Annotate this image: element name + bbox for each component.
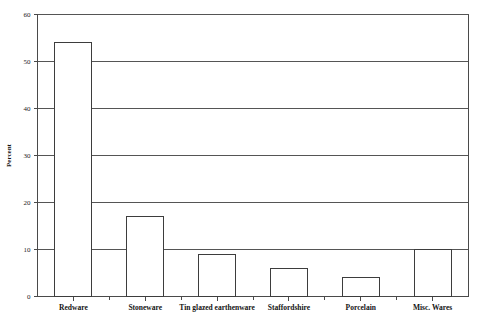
bar-porcelain[interactable] <box>342 278 379 297</box>
y-axis-title: Percent <box>5 143 13 166</box>
bar-tin-glazed-earthenware[interactable] <box>199 254 236 296</box>
x-tick-label-2: Tin glazed earthenware <box>179 303 255 312</box>
x-tick-label-1: Stoneware <box>128 303 162 312</box>
y-tick-label-30: 30 <box>24 152 32 160</box>
bar-chart: 0102030405060PercentRedwareStonewareTin … <box>0 0 482 325</box>
bar-misc-wares[interactable] <box>414 250 451 297</box>
x-tick-label-3: Staffordshire <box>268 303 311 312</box>
y-tick-label-60: 60 <box>24 11 32 19</box>
y-tick-label-40: 40 <box>24 105 32 113</box>
x-tick-label-4: Porcelain <box>346 303 377 312</box>
chart-plot-area: 0102030405060PercentRedwareStonewareTin … <box>0 0 482 325</box>
bar-stoneware[interactable] <box>127 217 164 297</box>
bar-redware[interactable] <box>55 43 92 297</box>
x-tick-label-0: Redware <box>59 303 88 312</box>
y-tick-label-0: 0 <box>27 293 31 301</box>
y-tick-label-50: 50 <box>24 58 32 66</box>
bar-staffordshire[interactable] <box>270 268 307 296</box>
y-tick-label-20: 20 <box>24 199 32 207</box>
x-tick-label-5: Misc. Wares <box>413 303 452 312</box>
y-tick-label-10: 10 <box>24 246 32 254</box>
